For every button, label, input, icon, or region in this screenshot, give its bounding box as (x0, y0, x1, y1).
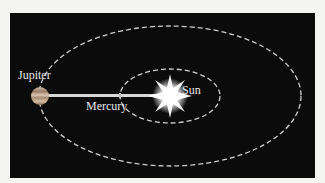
mercury-label: Mercury (86, 100, 127, 112)
jupiter-sun-line (48, 94, 163, 97)
orbit-diagram (0, 0, 325, 183)
sun-label: Sun (182, 84, 201, 96)
jupiter-icon (31, 87, 49, 105)
mercury-icon (119, 93, 121, 98)
jupiter-label: Jupiter (18, 69, 51, 81)
